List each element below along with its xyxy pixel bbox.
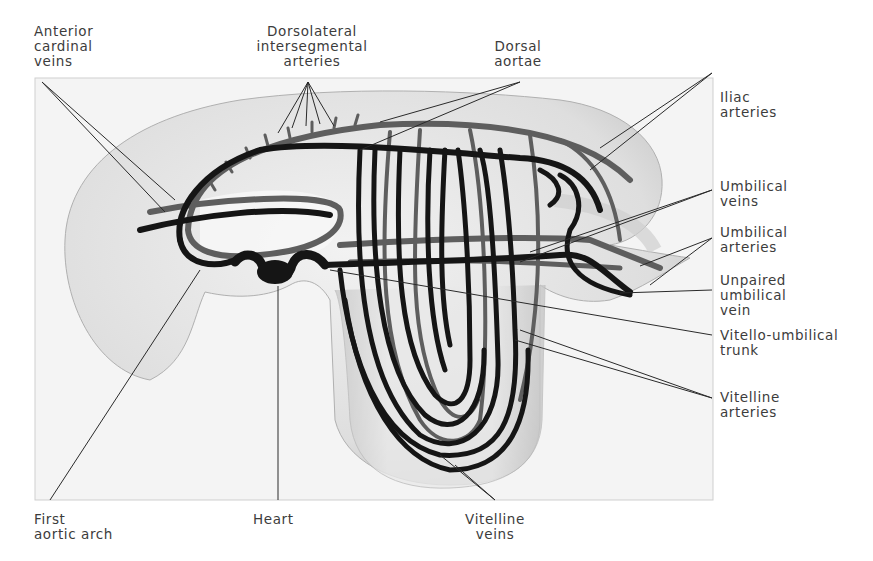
label-vitelline-veins: Vitelline veins <box>452 512 538 542</box>
label-umbilical-veins: Umbilical veins <box>720 179 788 209</box>
label-anterior-cardinal-veins: Anterior cardinal veins <box>34 24 93 69</box>
label-unpaired-umbilical-vein: Unpaired umbilical vein <box>720 273 786 318</box>
label-first-aortic-arch: First aortic arch <box>34 512 113 542</box>
embryo-circulation-figure: Anterior cardinal veins Dorsolateral int… <box>0 0 873 561</box>
label-heart: Heart <box>253 512 294 527</box>
label-vitelline-arteries: Vitelline arteries <box>720 390 780 420</box>
label-dorsolateral-intersegmental-arteries: Dorsolateral intersegmental arteries <box>252 24 372 69</box>
heart-shape <box>257 260 293 284</box>
label-iliac-arteries: Iliac arteries <box>720 90 777 120</box>
label-vitello-umbilical-trunk: Vitello-umbilical trunk <box>720 328 838 358</box>
label-umbilical-arteries: Umbilical arteries <box>720 225 788 255</box>
label-dorsal-aortae: Dorsal aortae <box>488 39 548 69</box>
